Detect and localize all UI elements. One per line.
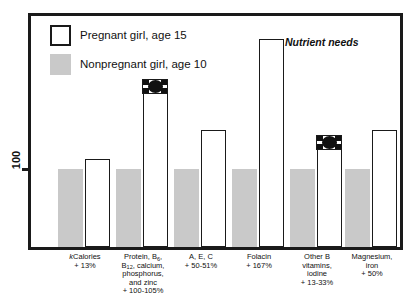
x-axis-label-percent: + 50% — [332, 270, 412, 279]
axis-break-marker-icon — [316, 135, 342, 150]
x-axis-label-percent: + 100-105% — [103, 287, 183, 296]
bar-pregnant — [143, 87, 168, 247]
bar-nonpregnant — [290, 169, 315, 247]
break-marker-dot-icon — [148, 80, 163, 93]
break-marker-dot-icon — [322, 136, 337, 149]
axis-break-marker-icon — [142, 79, 168, 94]
bar-pregnant — [259, 39, 284, 247]
x-axis-labels: kCalories+ 13%Protein, B6,B12, calcium,p… — [0, 253, 419, 308]
bar-nonpregnant — [232, 169, 257, 247]
bar-pregnant — [372, 130, 397, 247]
nutrient-needs-bar-chart: 100 Pregnant girl, age 15 Nonpregnant gi… — [0, 0, 419, 308]
bar-pregnant — [201, 130, 226, 247]
bar-nonpregnant — [345, 169, 370, 247]
bar-nonpregnant — [116, 169, 141, 247]
x-axis-label-percent: + 13-33% — [277, 279, 357, 288]
bar-pregnant — [85, 159, 110, 247]
bar-pregnant — [317, 143, 342, 247]
x-axis-label: Magnesium,iron+ 50% — [332, 253, 412, 279]
bar-nonpregnant — [58, 169, 83, 247]
bar-nonpregnant — [174, 169, 199, 247]
x-axis-label-name: Magnesium,iron — [332, 253, 412, 270]
